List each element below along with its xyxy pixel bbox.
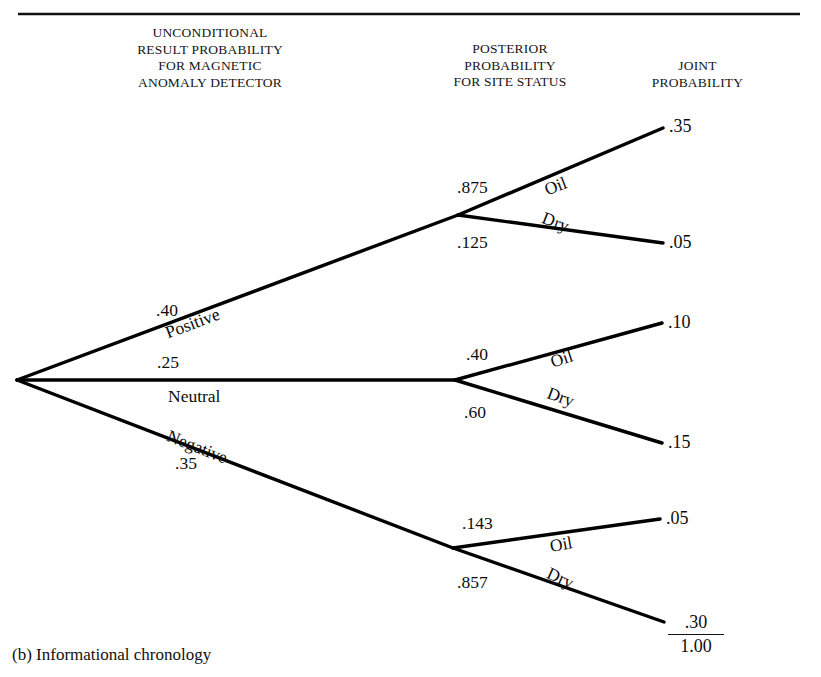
probability-negative-dry: .857 [457, 572, 488, 592]
column-header-joint: JOINT PROBABILITY [600, 58, 795, 91]
joint-probability-negative-oil: .05 [666, 508, 689, 528]
label-neutral: Neutral [168, 386, 220, 406]
joint-probability-neutral-dry: .15 [668, 432, 691, 452]
column-header-unconditional: UNCONDITIONAL RESULT PROBABILITY FOR MAG… [75, 25, 345, 91]
probability-negative: .35 [175, 453, 197, 473]
probability-neutral: .25 [157, 352, 179, 372]
joint-probability-sum: 1.00 [668, 635, 724, 657]
probability-neutral-oil: .40 [466, 344, 488, 364]
probability-negative-oil: .143 [462, 513, 493, 533]
figure-caption: (b) Informational chronology [12, 645, 211, 665]
branch-positive [17, 215, 458, 380]
probability-neutral-dry: .60 [464, 402, 486, 422]
joint-probability-positive-oil: .35 [669, 116, 692, 136]
probability-positive-oil: .875 [457, 177, 488, 197]
column-header-posterior: POSTERIOR PROBABILITY FOR SITE STATUS [395, 41, 625, 91]
probability-positive-dry: .125 [457, 232, 488, 252]
joint-probability-positive-dry: .05 [669, 232, 692, 252]
joint-probability-neutral-oil: .10 [668, 312, 691, 332]
figure-informational-chronology: UNCONDITIONAL RESULT PROBABILITY FOR MAG… [0, 0, 821, 677]
joint-probability-negative-dry: .30 [668, 612, 724, 635]
tree-lines [0, 0, 821, 677]
branch-negative [17, 380, 453, 548]
label-negative-oil: Oil [548, 532, 574, 556]
branch-positive-oil [458, 128, 663, 215]
joint-total-block: .30 1.00 [668, 612, 724, 657]
probability-positive: .40 [156, 300, 178, 320]
